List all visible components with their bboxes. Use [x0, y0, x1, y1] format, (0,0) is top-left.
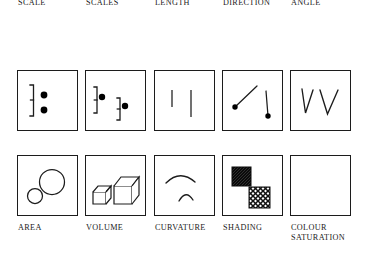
- task-panel-area: [17, 155, 78, 216]
- task-panel-volume: [85, 155, 146, 216]
- task-label-colour-saturation: COLOUR SATURATION: [291, 223, 361, 244]
- shading-icon: [223, 156, 282, 215]
- task-panel-colour-saturation: [290, 155, 351, 216]
- task-label-area: AREA: [18, 223, 88, 233]
- task-row-bottom: AREA VOLUME: [0, 152, 371, 264]
- task-panel-shading: [222, 155, 283, 216]
- perceptual-tasks-figure: POSITION COMMON SCALE POSITION NON- ALIG…: [0, 0, 371, 270]
- curvature-icon: [155, 156, 214, 215]
- position-non-aligned-scales-icon: [86, 71, 145, 130]
- colour-saturation-icon: [291, 156, 350, 215]
- task-panel-angle: [290, 70, 351, 131]
- task-label-length: LENGTH: [155, 0, 221, 8]
- angle-icon: [291, 71, 350, 130]
- direction-icon: [223, 71, 282, 130]
- task-label-position-common-scale: POSITION COMMON SCALE: [18, 0, 84, 8]
- volume-icon: [86, 156, 145, 215]
- task-label-curvature: CURVATURE: [155, 223, 225, 233]
- task-panel-curvature: [154, 155, 215, 216]
- task-panel-position-common-scale: [17, 70, 78, 131]
- task-panel-position-non-aligned-scales: [85, 70, 146, 131]
- position-common-scale-icon: [18, 71, 77, 130]
- task-label-shading: SHADING: [223, 223, 293, 233]
- task-label-direction: DIRECTION: [223, 0, 289, 8]
- task-panel-length: [154, 70, 215, 131]
- task-label-position-non-aligned-scales: POSITION NON- ALIGNED SCALES: [86, 0, 152, 8]
- task-label-volume: VOLUME: [86, 223, 156, 233]
- task-panel-direction: [222, 70, 283, 131]
- area-icon: [18, 156, 77, 215]
- task-label-angle: ANGLE: [291, 0, 357, 8]
- length-icon: [155, 71, 214, 130]
- task-row-top: POSITION COMMON SCALE POSITION NON- ALIG…: [0, 8, 371, 146]
